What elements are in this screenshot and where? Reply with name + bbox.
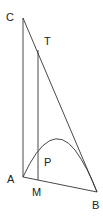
point-label-T: T: [44, 35, 51, 47]
point-label-A: A: [7, 173, 15, 185]
point-label-P: P: [44, 156, 51, 168]
point-label-C: C: [6, 11, 14, 23]
segment-CB: [23, 18, 97, 192]
point-label-B: B: [92, 199, 99, 211]
point-label-M: M: [32, 186, 41, 198]
geometry-diagram: C T A M B P: [0, 0, 103, 220]
